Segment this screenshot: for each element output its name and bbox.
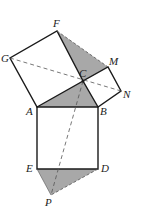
shaded-triangle-abc (37, 81, 98, 107)
shaded-triangle-edp (37, 169, 98, 195)
label-m: M (108, 55, 119, 67)
label-b: B (100, 105, 107, 117)
square-abde (37, 107, 98, 169)
label-c: C (79, 67, 87, 79)
geometry-diagram: F G M C N A B E D P (0, 0, 141, 216)
label-f: F (52, 17, 60, 29)
label-p: P (44, 196, 52, 208)
label-g: G (1, 52, 9, 64)
label-a: A (25, 105, 33, 117)
dashed-line-gn (10, 58, 121, 91)
label-d: D (100, 162, 109, 174)
label-n: N (122, 88, 131, 100)
point-c (82, 80, 85, 83)
label-e: E (25, 162, 33, 174)
